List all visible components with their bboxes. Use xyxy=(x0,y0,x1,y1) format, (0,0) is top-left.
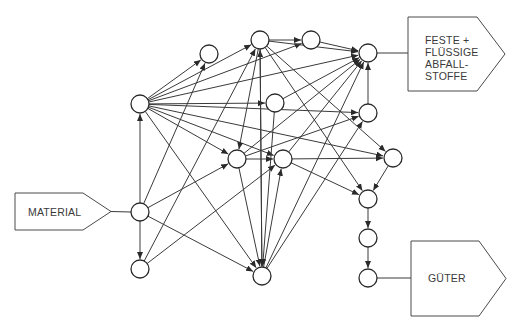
edge-A-B xyxy=(147,60,201,99)
material-input-box: MATERIAL xyxy=(15,193,111,230)
edge-A-D xyxy=(148,44,301,101)
material-label: MATERIAL xyxy=(28,206,81,218)
edge-A-H xyxy=(148,107,273,155)
edge-H-J xyxy=(292,158,383,159)
process-node-N xyxy=(359,190,377,208)
process-node-P xyxy=(359,269,377,287)
waste-label-line-1: FESTE + xyxy=(425,34,469,46)
edge-A-E xyxy=(149,55,358,102)
process-node-K xyxy=(131,203,149,221)
process-node-J xyxy=(384,149,402,167)
goods-label: GÜTER xyxy=(428,272,466,284)
edge-A-I xyxy=(149,104,358,112)
process-node-H xyxy=(274,150,292,168)
edge-layer xyxy=(140,40,388,271)
edge-K-G xyxy=(148,164,228,208)
connector-K-material xyxy=(111,212,131,213)
edge-C-M xyxy=(260,49,262,266)
edge-J-N xyxy=(373,166,388,191)
process-node-G xyxy=(228,150,246,168)
edge-F-M xyxy=(263,112,275,266)
waste-label-line-2: FLÜSSIGE xyxy=(425,46,479,58)
process-node-B xyxy=(200,45,218,63)
edge-H-E xyxy=(289,61,362,152)
edge-H-N xyxy=(291,163,359,195)
process-node-L xyxy=(131,260,149,278)
process-node-D xyxy=(302,31,320,49)
waste-label-line-4: STOFFE xyxy=(425,70,467,82)
process-node-I xyxy=(359,104,377,122)
waste-label-line-3: ABFALL- xyxy=(425,58,469,70)
goods-output-box: GÜTER xyxy=(411,241,506,316)
process-node-O xyxy=(359,229,377,247)
waste-output-box: FESTE + FLÜSSIGE ABFALL- STOFFE xyxy=(408,17,505,91)
process-node-F xyxy=(266,94,284,112)
edge-G-I xyxy=(246,116,359,156)
flow-diagram: MATERIAL FESTE + FLÜSSIGE ABFALL- STOFFE… xyxy=(0,0,520,332)
edge-G-M xyxy=(239,168,260,266)
process-node-A xyxy=(131,95,149,113)
process-node-E xyxy=(359,44,377,62)
process-node-C xyxy=(251,31,269,49)
edge-C-G xyxy=(239,49,258,149)
process-node-M xyxy=(253,267,271,285)
